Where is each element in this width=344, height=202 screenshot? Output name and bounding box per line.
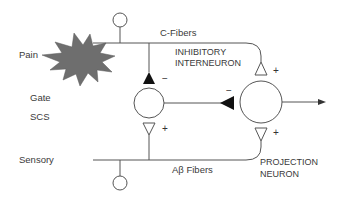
label-pain: Pain [19, 49, 38, 60]
label-projection-2: NEURON [260, 169, 299, 180]
ab-fiber-soma-icon [113, 176, 127, 190]
label-c-fibers: C-Fibers [160, 27, 196, 38]
excitatory-synapse-icon [255, 128, 267, 141]
sign-inhib-to-proj: − [226, 86, 232, 96]
sign-ab-to-proj: + [273, 128, 279, 138]
ab-fiber-line [93, 141, 261, 160]
sign-c-to-proj: + [273, 66, 279, 76]
output-arrow-icon [318, 99, 326, 105]
c-fiber-soma-icon [113, 13, 127, 27]
sign-ab-to-inhib: + [162, 124, 168, 134]
label-inhibitory-2: INTERNEURON [175, 58, 241, 69]
label-projection-1: PROJECTION [260, 157, 318, 168]
inhibitory-synapse-icon [220, 96, 234, 110]
label-gate: Gate [30, 92, 51, 103]
label-inhibitory-1: INHIBITORY [175, 47, 226, 58]
gate-control-diagram: Pain Gate SCS Sensory C-Fibers INHIBITOR… [0, 0, 344, 202]
inhibitory-synapse-icon [143, 72, 155, 84]
sign-c-to-inhib: − [162, 74, 168, 84]
pain-starburst-icon [42, 33, 115, 86]
inhibitory-interneuron-icon [134, 88, 164, 118]
label-scs: SCS [30, 111, 50, 122]
excitatory-synapse-icon [255, 62, 267, 75]
label-sensory: Sensory [19, 154, 54, 165]
excitatory-synapse-icon [143, 123, 155, 135]
projection-neuron-icon [240, 81, 282, 123]
label-ab-fibers: Aβ Fibers [172, 164, 213, 175]
